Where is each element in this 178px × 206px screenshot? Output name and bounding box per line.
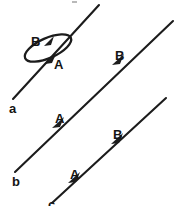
label-line-a-point-a: A (54, 57, 64, 72)
line-a-group (13, 5, 99, 99)
stray-speck (72, 1, 77, 3)
diagram-svg: A B a A B b A B c (0, 0, 178, 206)
label-line-b-point-b: B (115, 48, 124, 63)
label-line-c-point-b: B (113, 127, 122, 142)
label-line-a-point-b: B (31, 34, 40, 49)
line-c-shaft (52, 98, 166, 203)
label-line-c-point-a: A (70, 167, 80, 182)
line-c-group (52, 98, 166, 203)
figure-canvas: A B a A B b A B c (0, 0, 178, 206)
label-line-b: b (12, 174, 20, 189)
label-line-c: c (48, 197, 55, 206)
label-line-b-point-a: A (55, 111, 65, 126)
label-line-a: a (9, 101, 17, 116)
